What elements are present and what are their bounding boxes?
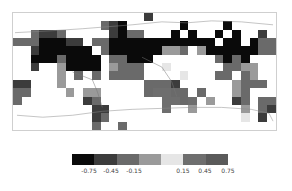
grid-cell	[31, 13, 40, 21]
grid-cell	[206, 105, 215, 113]
grid-cell	[74, 63, 83, 71]
grid-cell	[223, 105, 232, 113]
grid-cell	[31, 21, 40, 29]
grid-cell	[241, 13, 250, 21]
grid-cell	[153, 71, 162, 79]
grid-cell	[39, 13, 48, 21]
grid-cell	[92, 13, 101, 21]
grid-cell	[127, 122, 136, 130]
color-legend	[72, 154, 228, 165]
grid-cell	[258, 113, 267, 121]
grid-cell	[127, 71, 136, 79]
grid-cell	[31, 55, 40, 63]
grid-cell	[136, 80, 145, 88]
grid-cell	[215, 21, 224, 29]
grid-cell	[232, 80, 241, 88]
grid-cell	[241, 80, 250, 88]
grid-cell	[74, 97, 83, 105]
grid-cell	[197, 46, 206, 54]
grid-cell	[57, 38, 66, 46]
grid-cell	[223, 13, 232, 21]
grid-cell	[267, 38, 276, 46]
grid-cell	[22, 97, 31, 105]
grid-cell	[180, 13, 189, 21]
grid-cell	[48, 63, 57, 71]
grid-cell	[109, 30, 118, 38]
grid-cell	[109, 105, 118, 113]
grid-cell	[118, 38, 127, 46]
grid-cell	[162, 55, 171, 63]
grid-cell	[171, 13, 180, 21]
grid-cell	[144, 113, 153, 121]
grid-cell	[22, 13, 31, 21]
grid-cell	[31, 63, 40, 71]
grid-cell	[153, 63, 162, 71]
grid-cell	[144, 88, 153, 96]
grid-cell	[197, 21, 206, 29]
grid-cell	[22, 46, 31, 54]
world-map	[12, 12, 277, 131]
grid-cell	[136, 13, 145, 21]
grid-cell	[74, 30, 83, 38]
grid-cell	[101, 55, 110, 63]
grid-cell	[241, 55, 250, 63]
grid-cell	[223, 30, 232, 38]
grid-cell	[57, 63, 66, 71]
grid-cell	[162, 80, 171, 88]
grid-cell	[258, 122, 267, 130]
grid-cell	[31, 30, 40, 38]
legend-swatch	[117, 154, 139, 165]
grid-cell	[74, 122, 83, 130]
grid-cell	[66, 21, 75, 29]
grid-cell	[127, 105, 136, 113]
grid-cell	[109, 80, 118, 88]
grid-cell	[232, 113, 241, 121]
grid-cell	[83, 71, 92, 79]
grid-cell	[223, 88, 232, 96]
grid-cell	[153, 80, 162, 88]
grid-cell	[206, 88, 215, 96]
grid-cell	[180, 63, 189, 71]
grid-cell	[171, 122, 180, 130]
grid-cell	[241, 63, 250, 71]
grid-cell	[162, 21, 171, 29]
grid-cell	[83, 105, 92, 113]
grid-cell	[188, 88, 197, 96]
grid-cell	[267, 63, 276, 71]
legend-label: 0.45	[198, 167, 211, 174]
grid-cell	[215, 113, 224, 121]
grid-cell	[180, 55, 189, 63]
grid-cell	[13, 13, 22, 21]
grid-cell	[258, 30, 267, 38]
grid-cell	[267, 55, 276, 63]
grid-cell	[57, 80, 66, 88]
grid-cell	[109, 38, 118, 46]
grid-cell	[162, 13, 171, 21]
grid-cell	[101, 13, 110, 21]
grid-cell	[267, 13, 276, 21]
grid-cell	[232, 30, 241, 38]
grid-cell	[118, 97, 127, 105]
grid-cell	[92, 38, 101, 46]
grid-cell	[127, 80, 136, 88]
grid-cell	[39, 122, 48, 130]
grid-cell	[92, 71, 101, 79]
grid-cell	[83, 122, 92, 130]
grid-cell	[118, 21, 127, 29]
grid-cell	[31, 97, 40, 105]
grid-cell	[153, 55, 162, 63]
grid-cell	[188, 97, 197, 105]
grid-cell	[144, 105, 153, 113]
grid-cell	[22, 38, 31, 46]
grid-cell	[22, 71, 31, 79]
grid-cell	[136, 30, 145, 38]
grid-cell	[188, 30, 197, 38]
grid-cell	[136, 46, 145, 54]
grid-cell	[250, 63, 259, 71]
grid-cell	[232, 21, 241, 29]
grid-cell	[162, 122, 171, 130]
grid-cell	[66, 71, 75, 79]
grid-cell	[39, 71, 48, 79]
grid-cell	[74, 21, 83, 29]
grid-cell	[57, 55, 66, 63]
